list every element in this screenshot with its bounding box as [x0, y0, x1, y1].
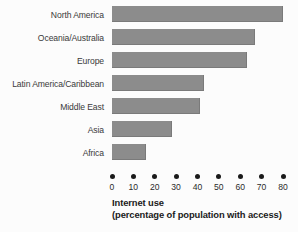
x-axis-title: Internet use (percentage of population w…: [112, 197, 298, 221]
category-label: Middle East: [0, 102, 104, 112]
category-label: Africa: [0, 148, 104, 158]
x-tick-label: 80: [278, 182, 288, 192]
x-tick-dot: [238, 174, 243, 179]
x-axis: 01020304050607080: [112, 172, 298, 196]
category-label: Latin America/Caribbean: [0, 79, 104, 89]
category-label: Europe: [0, 56, 104, 66]
x-axis-title-line-2: (percentage of population with access): [112, 209, 298, 221]
x-tick-label: 50: [214, 182, 224, 192]
category-axis-labels: North America Oceania/Australia Europe L…: [0, 0, 108, 170]
bar-north-america: [112, 6, 283, 22]
bar-chart: North America Oceania/Australia Europe L…: [0, 0, 298, 232]
x-tick-dot: [216, 174, 221, 179]
bar-europe: [112, 52, 247, 68]
bar-latin-america-caribbean: [112, 75, 204, 91]
bar-asia: [112, 121, 172, 137]
x-tick-label: 40: [193, 182, 203, 192]
x-tick-label: 30: [171, 182, 181, 192]
x-tick-label: 20: [150, 182, 160, 192]
bar-africa: [112, 144, 146, 160]
x-tick-label: 10: [129, 182, 139, 192]
x-tick-dot: [195, 174, 200, 179]
plot-area: [112, 0, 298, 172]
x-tick-dot: [110, 174, 115, 179]
x-tick-label: 0: [110, 182, 115, 192]
x-tick-dot: [259, 174, 264, 179]
x-tick-dot: [152, 174, 157, 179]
x-tick-label: 60: [235, 182, 245, 192]
category-label: Oceania/Australia: [0, 33, 104, 43]
bar-middle-east: [112, 98, 200, 114]
bar-oceania-australia: [112, 29, 255, 45]
category-label: Asia: [0, 125, 104, 135]
category-label: North America: [0, 10, 104, 20]
x-tick-label: 70: [257, 182, 267, 192]
x-tick-dot: [281, 174, 286, 179]
x-axis-title-line-1: Internet use: [112, 197, 298, 209]
x-tick-dot: [131, 174, 136, 179]
x-tick-dot: [174, 174, 179, 179]
